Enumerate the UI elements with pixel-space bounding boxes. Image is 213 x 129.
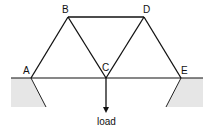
node-label-d: D — [143, 5, 150, 15]
member-de — [144, 17, 181, 78]
left-support-ground — [11, 78, 46, 107]
member-ab — [31, 17, 68, 78]
node-label-a: A — [23, 66, 30, 76]
node-label-e: E — [181, 66, 188, 76]
load-arrow-head-icon — [103, 107, 109, 113]
right-support-ground — [166, 78, 203, 107]
node-label-b: B — [62, 5, 69, 15]
member-bc — [68, 17, 106, 78]
load-label: load — [97, 117, 116, 127]
node-label-c: C — [102, 63, 109, 73]
member-cd — [106, 17, 144, 78]
